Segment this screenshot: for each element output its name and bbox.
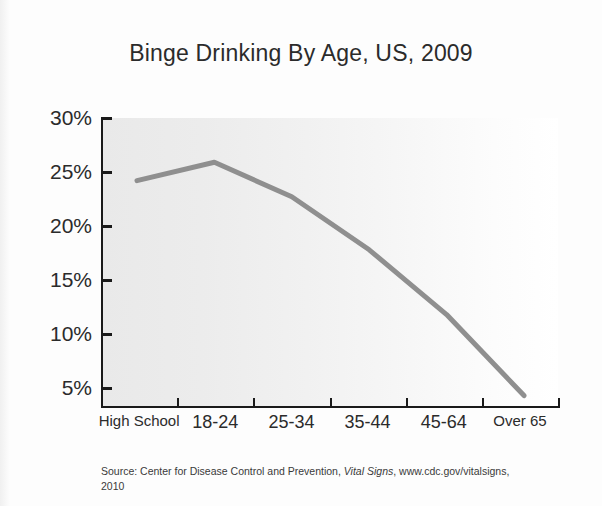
x-axis-label-45-64: 45-64 xyxy=(421,412,467,433)
source-note: Source: Center for Disease Control and P… xyxy=(101,464,521,494)
y-axis-label-25pct: 25% xyxy=(50,160,92,184)
source-prefix: Source: Center for Disease Control and P… xyxy=(101,465,344,477)
binge-drinking-line xyxy=(137,162,524,395)
y-axis-label-30pct: 30% xyxy=(50,106,92,130)
source-italic-title: Vital Signs xyxy=(344,465,393,477)
y-axis-label-5pct: 5% xyxy=(62,376,92,400)
x-axis-label-high-school: High School xyxy=(99,412,180,429)
y-axis-label-20pct: 20% xyxy=(50,214,92,238)
x-tick-6 xyxy=(558,398,560,408)
y-axis-label-15pct: 15% xyxy=(50,268,92,292)
data-line-series xyxy=(101,118,558,408)
y-axis-labels: 30%25%20%15%10%5% xyxy=(30,118,92,408)
x-axis-label-25-34: 25-34 xyxy=(268,412,314,433)
x-axis-label-35-44: 35-44 xyxy=(345,412,391,433)
y-axis-label-10pct: 10% xyxy=(50,322,92,346)
x-axis-label-over-65: Over 65 xyxy=(493,412,546,429)
x-axis-labels: High School18-2425-3435-4445-64Over 65 xyxy=(101,412,571,442)
chart-title: Binge Drinking By Age, US, 2009 xyxy=(0,40,602,67)
plot-area xyxy=(101,118,558,408)
x-axis-label-18-24: 18-24 xyxy=(192,412,238,433)
